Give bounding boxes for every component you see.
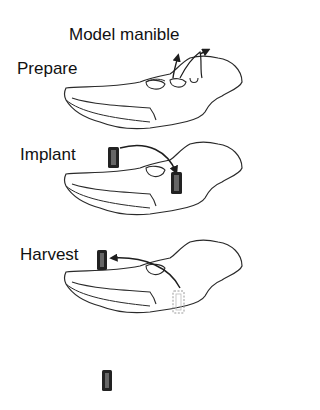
tooth-2 bbox=[170, 79, 186, 87]
implant-final bbox=[102, 370, 112, 391]
implant-ghost bbox=[173, 291, 184, 313]
extraction-arrow-2 bbox=[200, 50, 208, 54]
harvest-arrow bbox=[112, 258, 180, 288]
implant-source bbox=[108, 147, 119, 168]
implant-placed bbox=[171, 172, 182, 194]
tooth-1 bbox=[146, 80, 165, 89]
mandible-implant bbox=[65, 142, 243, 215]
mandible-harvest bbox=[65, 240, 243, 313]
tooth-3 bbox=[190, 78, 198, 83]
mandible-prepare bbox=[65, 50, 243, 129]
extraction-arrow-1 bbox=[173, 56, 178, 78]
implant-harvested bbox=[97, 250, 107, 270]
implant-arrow bbox=[120, 145, 176, 172]
